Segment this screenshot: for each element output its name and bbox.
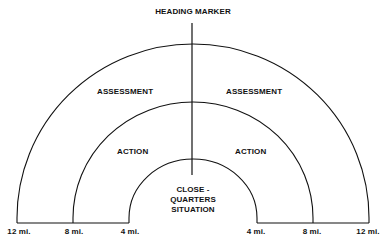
distance-right-4mi: 4 mi. [247,227,266,236]
assessment-right-label: ASSESSMENT [226,87,282,96]
distance-left-12mi: 12 mi. [7,227,30,236]
heading-marker-label: HEADING MARKER [155,7,231,16]
close-quarters-line3: SITUATION [170,205,216,215]
action-right-label: ACTION [235,147,266,156]
close-quarters-line2: QUARTERS [170,195,216,205]
distance-right-12mi: 12 mi. [356,227,379,236]
assessment-left-label: ASSESSMENT [97,87,153,96]
action-left-label: ACTION [117,147,148,156]
distance-right-8mi: 8 mi. [303,227,322,236]
distance-left-4mi: 4 mi. [121,227,140,236]
close-quarters-label: CLOSE - QUARTERS SITUATION [170,185,216,215]
distance-left-8mi: 8 mi. [65,227,84,236]
close-quarters-line1: CLOSE - [170,185,216,195]
